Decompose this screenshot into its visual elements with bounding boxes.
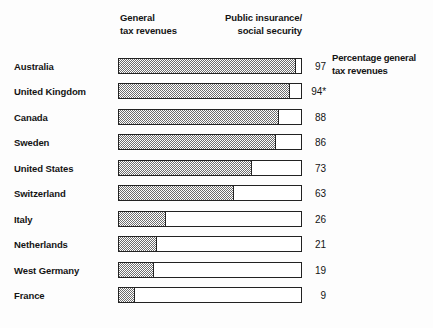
legend-label-public-insurance-social-security: Public insurance/ social security [225,12,302,37]
bar-fill-general-tax-revenues [119,288,135,302]
country-label: Switzerland [14,188,66,199]
legend-label-general-tax-revenues: General tax revenues [120,12,177,37]
country-label: United States [14,162,73,173]
bar-fill-general-tax-revenues [119,186,234,200]
country-label: Netherlands [14,239,68,250]
bar-track [118,134,302,150]
value-label: 63 [303,188,326,199]
value-label: 21 [303,239,326,250]
value-axis-annotation: Percentage general tax revenues [332,52,430,77]
value-label: 19 [303,264,326,275]
bar-track [118,287,302,303]
country-label: France [14,290,45,301]
value-label: 73 [303,162,326,173]
table-row: Italy26 [0,206,433,232]
chart-figure: General tax revenues Public insurance/ s… [0,0,433,328]
bar-track [118,185,302,201]
table-row: West Germany19 [0,257,433,283]
country-label: Australia [14,60,54,71]
country-label: Canada [14,111,48,122]
value-label: 97 [303,60,326,71]
bar-fill-general-tax-revenues [119,110,279,124]
bar-fill-general-tax-revenues [119,135,276,149]
table-row: France9 [0,283,433,309]
bar-track [118,83,302,99]
bar-fill-general-tax-revenues [119,161,252,175]
bar-fill-general-tax-revenues [119,84,290,98]
bar-track [118,160,302,176]
bar-track [118,211,302,227]
value-label: 26 [303,213,326,224]
bar-fill-general-tax-revenues [119,212,166,226]
bar-fill-general-tax-revenues [119,237,157,251]
value-label: 9 [303,290,326,301]
value-label: 94* [303,86,326,97]
value-label: 88 [303,111,326,122]
bar-track [118,262,302,278]
table-row: Switzerland63 [0,181,433,207]
bar-track [118,236,302,252]
value-label: 86 [303,137,326,148]
country-label: West Germany [14,264,79,275]
bar-fill-general-tax-revenues [119,263,154,277]
table-row: Sweden86 [0,130,433,156]
chart-legend: General tax revenues Public insurance/ s… [118,12,302,48]
table-row: Netherlands21 [0,232,433,258]
country-label: United Kingdom [14,86,86,97]
table-row: Canada88 [0,104,433,130]
bar-track [118,58,302,74]
bar-track [118,109,302,125]
table-row: United Kingdom94* [0,79,433,105]
country-label: Italy [14,213,33,224]
table-row: United States73 [0,155,433,181]
country-label: Sweden [14,137,49,148]
chart-rows: Australia97United Kingdom94*Canada88Swed… [0,53,433,308]
bar-fill-general-tax-revenues [119,59,296,73]
